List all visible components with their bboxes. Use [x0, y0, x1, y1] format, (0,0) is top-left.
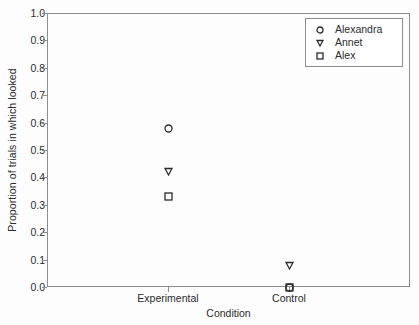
data-point-marker: [285, 283, 294, 292]
y-axis-tick-label: 0.0: [11, 281, 45, 293]
legend-item-label: Annet: [328, 36, 362, 49]
y-axis-tick-mark: [42, 13, 47, 14]
y-axis-tick-mark: [42, 95, 47, 96]
circle-marker-icon: [312, 23, 328, 36]
y-axis-tick-label: 0.3: [11, 199, 45, 211]
y-axis-tick-label: 0.1: [11, 254, 45, 266]
y-axis-tick-mark: [42, 287, 47, 288]
x-axis-title: Condition: [47, 307, 410, 320]
legend-item: Alexandra: [312, 23, 397, 36]
x-axis-tick-label: Experimental: [108, 292, 228, 305]
y-axis-tick-label: 1.0: [11, 7, 45, 19]
chart-legend: AlexandraAnnetAlex: [305, 18, 403, 67]
data-point-marker: [164, 192, 173, 201]
square-marker-icon: [312, 49, 328, 62]
y-axis-tick-mark: [42, 68, 47, 69]
y-axis-tick-mark: [42, 123, 47, 124]
legend-item: Annet: [312, 36, 397, 49]
x-axis-tick-label: Control: [229, 292, 349, 305]
y-axis-tick-label: 0.6: [11, 117, 45, 129]
y-axis-tick-label: 0.9: [11, 34, 45, 46]
y-axis-tick-mark: [42, 177, 47, 178]
y-axis-tick-label: 0.7: [11, 89, 45, 101]
legend-item-label: Alexandra: [328, 23, 382, 36]
y-axis-tick-labels: 1.00.90.80.70.60.50.40.30.20.10.0: [5, 13, 45, 287]
triangle-down-marker-icon: [312, 36, 328, 49]
y-axis-tick-mark: [42, 40, 47, 41]
data-point-marker: [164, 124, 173, 133]
legend-item: Alex: [312, 49, 397, 62]
y-axis-tick-mark: [42, 260, 47, 261]
y-axis-tick-mark: [42, 150, 47, 151]
y-axis-tick-mark: [42, 205, 47, 206]
y-axis-tick-mark: [42, 232, 47, 233]
y-axis-tick-label: 0.8: [11, 62, 45, 74]
y-axis-tick-label: 0.5: [11, 144, 45, 156]
y-axis-tick-label: 0.4: [11, 171, 45, 183]
legend-item-label: Alex: [328, 49, 355, 62]
data-point-marker: [164, 167, 173, 176]
y-axis-tick-label: 0.2: [11, 226, 45, 238]
data-point-marker: [285, 261, 294, 270]
scatter-plot-figure: Proportion of trials in which looked 1.0…: [0, 0, 419, 325]
